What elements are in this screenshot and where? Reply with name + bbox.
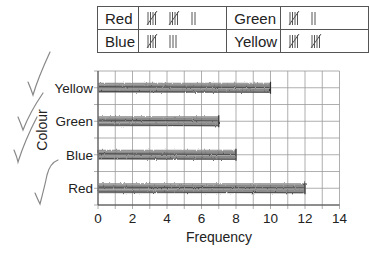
check-mark-icon <box>35 160 58 204</box>
x-axis-title: Frequency <box>186 229 252 245</box>
check-mark-icon <box>28 52 50 95</box>
bar-yellow <box>98 82 271 94</box>
x-tick-label: 8 <box>232 211 240 226</box>
bar-blue <box>98 149 236 161</box>
x-tick-label: 4 <box>163 211 171 226</box>
bar-green <box>98 115 219 127</box>
category-label-green: Green <box>55 114 93 129</box>
x-tick-label: 2 <box>129 211 137 226</box>
x-tick-label: 6 <box>198 211 206 226</box>
x-tick-labels: 0 2 4 6 8 10 12 14 <box>94 211 347 226</box>
bar-red <box>98 182 305 194</box>
bar-chart: Yellow Green Blue Red 0 2 4 6 8 10 12 14… <box>0 0 369 261</box>
x-tick-label: 14 <box>332 211 348 226</box>
x-tick-label: 0 <box>94 211 102 226</box>
x-tick-label: 12 <box>297 211 312 226</box>
y-axis-title: Colour <box>34 109 50 151</box>
category-label-blue: Blue <box>66 148 93 163</box>
category-label-yellow: Yellow <box>54 81 93 96</box>
category-labels: Yellow Green Blue Red <box>54 81 93 196</box>
x-tick-label: 10 <box>263 211 278 226</box>
category-label-red: Red <box>68 181 93 196</box>
